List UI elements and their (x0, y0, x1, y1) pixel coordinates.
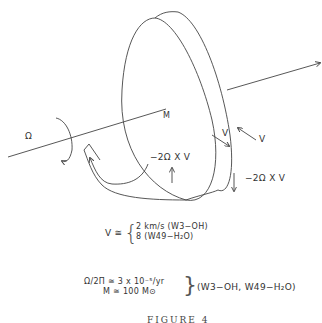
v-case-2: 8 (W49−H₂O) (136, 232, 194, 241)
figure-caption: FIGURE 4 (147, 315, 210, 323)
v-inner-label: V (222, 128, 228, 138)
outgoing-axis-arrow (227, 63, 320, 90)
sources-label: (W3−OH, W49−H₂O) (197, 282, 296, 292)
omega-equation: Ω/2Π ≅ 3 x 10⁻⁵/yr (84, 277, 164, 286)
coriolis-outer-label: −2Ω X V (245, 173, 285, 183)
v-approx-lhs: V ≅ (105, 228, 122, 238)
coriolis-inner-label: −2Ω X V (150, 152, 190, 162)
brace-right: } (183, 272, 197, 297)
mass-equation: M ≅ 100 M⊙ (103, 287, 156, 296)
omega-label: Ω (25, 131, 32, 141)
disk-back-rim (155, 12, 232, 191)
rotating-disk-diagram (0, 0, 322, 230)
flow-curve-arrow (90, 158, 148, 184)
v-outer-label: V (259, 134, 265, 144)
mass-label: M (163, 111, 170, 120)
disk-front-face (122, 18, 216, 200)
v-case-1: 2 km/s (W3−OH) (136, 222, 208, 231)
v-outer-arrow (238, 128, 256, 140)
